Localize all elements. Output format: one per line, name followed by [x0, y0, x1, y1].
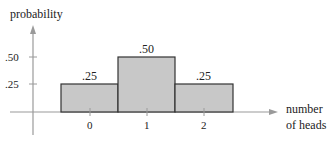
histogram-plot [0, 0, 330, 150]
y-tick-label-50: .50 [5, 51, 19, 64]
bar-2 [175, 84, 233, 112]
bar-0 [61, 84, 118, 112]
x-tick-label-1: 1 [144, 119, 150, 132]
x-axis-label: number of heads [286, 103, 326, 132]
x-tick-label-2: 2 [201, 119, 207, 132]
y-axis-arrow-icon [30, 25, 36, 34]
bar-0-value-label: .25 [82, 70, 97, 83]
x-axis-arrow-icon [269, 109, 278, 115]
x-axis-label-line-2: of heads [286, 119, 326, 132]
bar-1-value-label: .50 [139, 43, 154, 56]
x-axis-label-line-1: number [286, 103, 326, 116]
x-tick-label-0: 0 [87, 119, 93, 132]
bar-1 [118, 57, 175, 112]
y-axis-label: probability [10, 8, 63, 21]
bar-2-value-label: .25 [196, 70, 211, 83]
y-tick-label-25: .25 [5, 78, 19, 91]
